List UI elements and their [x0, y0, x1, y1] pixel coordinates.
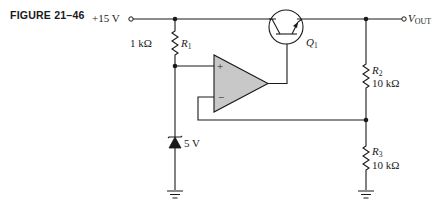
supply-terminal: [129, 17, 133, 21]
supply-label: +15 V: [92, 12, 120, 24]
op-amp-plus: +: [217, 60, 223, 72]
vout-label: VOUT: [408, 12, 431, 26]
vout-terminal: [402, 17, 406, 21]
resistor-r2: [363, 19, 369, 120]
op-amp-minus: −: [218, 91, 224, 103]
ground-icon-left: [167, 191, 183, 198]
resistor-r3: [363, 120, 369, 190]
ground-icon-right: [358, 191, 374, 198]
r3-value: 10 kΩ: [372, 159, 399, 171]
r1-label: R1: [180, 37, 192, 51]
r2-value: 10 kΩ: [372, 77, 399, 89]
circuit-diagram: +15 V VOUT 1 kΩ R1 5 V + −: [0, 0, 445, 213]
zener-value: 5 V: [184, 137, 200, 149]
wire-opamp-to-base: [268, 44, 287, 84]
resistor-r1: [172, 19, 178, 66]
r1-value: 1 kΩ: [130, 37, 152, 49]
r2-label: R2: [371, 64, 383, 78]
r3-label: R3: [371, 145, 383, 159]
q1-label: Q1: [306, 36, 318, 50]
zener-diode: [168, 136, 182, 190]
transistor-q1: [269, 10, 303, 44]
op-amp: + −: [214, 55, 268, 112]
